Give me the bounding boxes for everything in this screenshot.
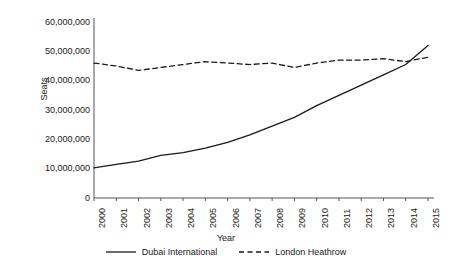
chart-figure: Seats 010,000,00020,000,00030,000,00040,… [0,0,452,268]
x-axis-tick-label: 2007 [254,208,263,228]
x-axis-tick-label: 2000 [98,208,107,228]
legend-item[interactable]: London Heathrow [239,247,346,257]
x-axis-tick-label: 2003 [165,208,174,228]
legend-label: Dubai International [142,247,218,257]
legend-item[interactable]: Dubai International [106,247,218,257]
x-axis-tick-label: 2005 [209,208,218,228]
x-axis-tick-label: 2006 [232,208,241,228]
x-axis-tick-labels: 2000200120022003200420052006200720082009… [0,0,452,268]
x-axis-title: Year [0,233,452,243]
x-axis-tick-label: 2010 [321,208,330,228]
x-axis-tick-label: 2013 [387,208,396,228]
x-axis-tick-label: 2009 [298,208,307,228]
x-axis-tick-label: 2001 [120,208,129,228]
x-axis-tick-label: 2002 [143,208,152,228]
chart-legend: Dubai InternationalLondon Heathrow [0,247,452,257]
x-axis-tick-label: 2008 [276,208,285,228]
x-axis-tick-label: 2011 [343,209,352,228]
legend-line-swatch [106,248,136,256]
x-axis-tick-label: 2012 [365,208,374,228]
legend-line-swatch [239,248,269,256]
x-axis-tick-label: 2004 [187,208,196,228]
x-axis-tick-label: 2014 [410,208,419,228]
x-axis-tick-label: 2015 [432,208,441,228]
legend-label: London Heathrow [275,247,346,257]
